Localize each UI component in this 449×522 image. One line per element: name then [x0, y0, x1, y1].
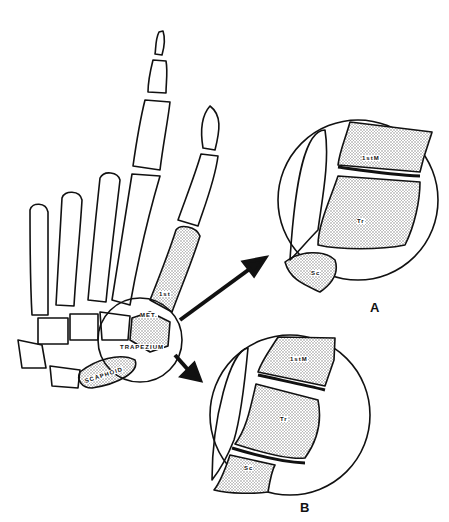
- inset-a-label-sc: Sc: [311, 270, 320, 276]
- label-trapezium: TRAPEZIUM: [120, 344, 164, 350]
- ring-metacarpal: [56, 192, 82, 306]
- index-middle-phalanx: [148, 60, 167, 93]
- inset-b-label-tr: Tr: [280, 416, 288, 422]
- panel-label-b: B: [300, 500, 309, 515]
- thumb-proximal-phalanx: [178, 154, 218, 226]
- label-met: MET.: [140, 312, 158, 318]
- arrow-to-a: [180, 265, 255, 320]
- carpal-2: [70, 314, 98, 340]
- inset-a-label-1stm: 1stM: [362, 155, 380, 161]
- carpal-3: [38, 318, 68, 344]
- carpal-4: [18, 340, 46, 368]
- label-1st: 1st: [159, 291, 171, 297]
- inset-b-label-1stm: 1stM: [290, 356, 308, 362]
- little-metacarpal: [30, 204, 48, 315]
- hand-diagram: [0, 0, 449, 522]
- index-distal-phalanx: [155, 31, 165, 55]
- index-proximal-phalanx: [133, 100, 170, 170]
- carpal-5: [50, 366, 80, 388]
- first-metacarpal: [150, 227, 200, 312]
- inset-a-label-tr: Tr: [357, 218, 365, 224]
- thumb-distal-phalanx: [202, 106, 219, 150]
- inset-b-label-sc: Sc: [244, 465, 253, 471]
- panel-label-a: A: [370, 300, 379, 315]
